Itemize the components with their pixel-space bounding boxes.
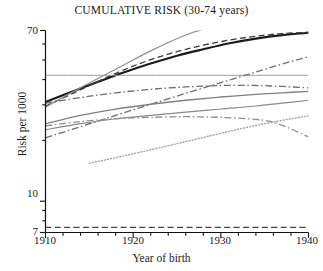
y-tick-label-70: 70 [8, 24, 38, 36]
series-steep-gray-solid [46, 28, 208, 107]
y-axis-ticks [40, 31, 46, 233]
y-axis-label: Risk per 1000 [16, 44, 28, 204]
x-axis-ticks [46, 233, 309, 239]
x-tick-label-1930: 1930 [200, 234, 240, 246]
chart-plot-area [0, 0, 323, 271]
axis-lines [46, 31, 309, 233]
series-gray-dashdot-declining [46, 117, 309, 137]
series-gray-solid-mid-a [46, 91, 309, 123]
series-gray-dashdot-rising [46, 57, 309, 138]
series-black-dashed [46, 32, 309, 106]
x-axis-label: Year of birth [0, 252, 323, 264]
chart-figure: CUMULATIVE RISK (30-74 years) 70 10 7 19… [0, 0, 323, 271]
x-tick-label-1910: 1910 [25, 234, 65, 246]
x-tick-label-1940: 1940 [287, 234, 323, 246]
series-thick-black-solid [46, 33, 309, 102]
x-tick-label-1920: 1920 [113, 234, 153, 246]
